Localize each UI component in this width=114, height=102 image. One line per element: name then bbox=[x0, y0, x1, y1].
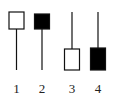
candle-body-filled bbox=[91, 48, 106, 70]
candle-body-hollow bbox=[9, 12, 24, 29]
candle-label: 2 bbox=[39, 81, 46, 96]
candle-label: 1 bbox=[13, 81, 20, 96]
candle-3 bbox=[65, 12, 80, 70]
candle-label: 4 bbox=[95, 81, 102, 96]
candle-4 bbox=[91, 12, 106, 70]
candle-body-filled bbox=[35, 14, 50, 29]
candle-2 bbox=[35, 14, 50, 70]
candle-1 bbox=[9, 12, 24, 70]
candle-body-hollow bbox=[65, 49, 80, 70]
candlestick-diagram: 1234 bbox=[0, 0, 114, 102]
candle-label: 3 bbox=[69, 81, 76, 96]
